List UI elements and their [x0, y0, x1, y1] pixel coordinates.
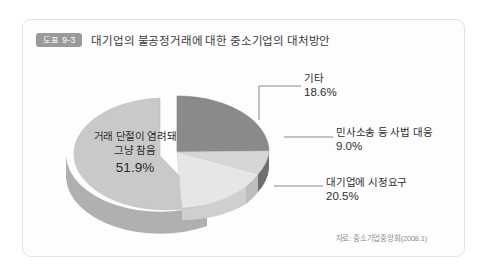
inner-label-line2: 그냥 참음	[60, 144, 210, 158]
callout-other-value: 18.6%	[304, 85, 337, 99]
figure-container: 도표 9-3 대기업의 불공정거래에 대한 중소기업의 대처방안	[0, 0, 487, 277]
callout-demand-label: 대기업에 시정요구	[326, 176, 407, 188]
callout-other: 기타 18.6%	[304, 72, 337, 99]
figure-badge: 도표 9-3	[36, 33, 82, 47]
inner-label-value: 51.9%	[60, 159, 210, 177]
callout-legal: 민사소송 등 사법 대응 9.0%	[336, 126, 432, 153]
source-note: 자료: 중소기업중앙회(2008.1)	[336, 232, 427, 243]
callout-demand: 대기업에 시정요구 20.5%	[326, 176, 407, 203]
chart-stage: 거래 단절이 염려돼 그냥 참음 51.9% 기타 18.6% 민사소송 등 사…	[22, 52, 465, 257]
callout-other-label: 기타	[304, 72, 337, 84]
figure-header: 도표 9-3 대기업의 불공정거래에 대한 중소기업의 대처방안	[36, 31, 330, 49]
callout-demand-value: 20.5%	[326, 189, 407, 203]
inner-slice-label: 거래 단절이 염려돼 그냥 참음 51.9%	[60, 130, 210, 177]
inner-label-line1: 거래 단절이 염려돼	[60, 130, 210, 144]
callout-legal-value: 9.0%	[336, 139, 432, 153]
figure-title: 대기업의 불공정거래에 대한 중소기업의 대처방안	[91, 32, 330, 48]
callout-legal-label: 민사소송 등 사법 대응	[336, 126, 432, 138]
